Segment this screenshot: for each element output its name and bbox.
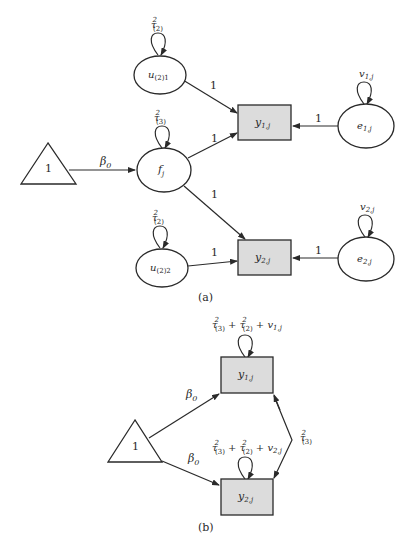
variance-label-y2-b: τ2(3) + τ2(2) + v2,j [212, 439, 283, 456]
caption-a: (a) [198, 291, 213, 304]
variance-label-e2: v2,j [360, 201, 375, 214]
covariance-y1-y2 [274, 396, 292, 478]
edge-label-e1-y1: 1 [315, 112, 322, 125]
variance-label-u21: τ2(2) [151, 16, 163, 33]
edge-label-f-y2: 1 [211, 188, 218, 201]
path-diagram: 1 1 1 1 1 1 β0 1 τ2(2) u(2)1 τ2(3) fj τ2… [0, 0, 412, 546]
variance-label-y1-b: τ2(3) + τ2(2) + v1,j [212, 316, 283, 333]
diagram-b: 1 β0 β0 τ2(3) τ2(3) + τ2(2) + v1,j y1,j … [108, 316, 312, 534]
edge-u22-to-y2 [188, 261, 237, 266]
edge-label-beta0-y1: β0 [185, 388, 197, 403]
edge-label-u21-y1: 1 [210, 79, 217, 92]
variance-loop-e2 [358, 215, 372, 237]
variance-loop-e1 [357, 82, 371, 104]
caption-b: (b) [198, 521, 214, 534]
variance-label-e1: v1,j [359, 68, 374, 81]
edge-label-f-y1: 1 [211, 132, 218, 145]
covariance-label: τ2(3) [300, 429, 312, 446]
variance-loop-u22 [153, 226, 167, 248]
variance-loop-y1-b [238, 335, 252, 357]
variance-loop-f [155, 126, 169, 148]
variance-label-f: τ2(3) [154, 109, 166, 126]
edge-label-beta0: β0 [99, 155, 111, 170]
constant-label: 1 [45, 162, 52, 175]
edge-label-beta0-y2: β0 [187, 452, 199, 467]
covariance-arrow-top [274, 395, 280, 410]
variance-loop-u21 [151, 33, 165, 55]
diagram-a: 1 1 1 1 1 1 β0 1 τ2(2) u(2)1 τ2(3) fj τ2… [21, 16, 394, 304]
edge-const-to-y1-b [149, 394, 219, 438]
edge-label-e2-y2: 1 [315, 244, 322, 257]
variance-label-u22: τ2(2) [152, 209, 164, 226]
variance-loop-y2-b [238, 457, 252, 479]
edge-label-u22-y2: 1 [211, 246, 218, 259]
constant-label-b: 1 [132, 440, 139, 453]
